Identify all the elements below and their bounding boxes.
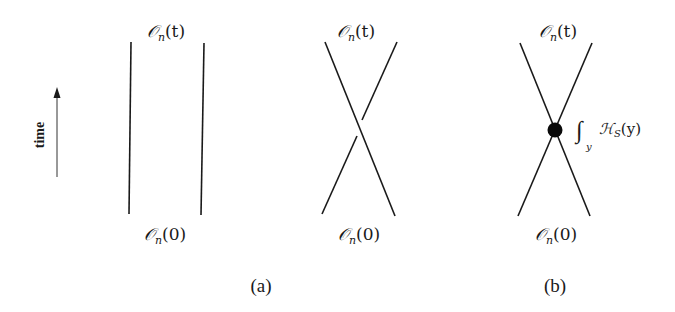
vertex-label: ∫ y ℋS(y) — [574, 117, 641, 152]
integral-subscript: y — [585, 141, 592, 152]
top-operator-label: 𝒪n(t) — [337, 21, 375, 44]
interaction-vertex-dot-icon — [548, 123, 563, 138]
bottom-operator-label: 𝒪n(0) — [144, 224, 186, 247]
bottom-operator-label: 𝒪n(0) — [338, 224, 380, 247]
panel-a-crossing: 𝒪n(t) 𝒪n(0) — [322, 21, 397, 247]
caption-b: (b) — [544, 275, 566, 297]
top-operator-label: 𝒪n(t) — [147, 21, 185, 44]
caption-a: (a) — [250, 275, 271, 297]
time-axis: time — [32, 87, 61, 177]
panel-b-vertex: 𝒪n(t) ∫ y ℋS(y) 𝒪n(0) — [518, 21, 641, 247]
worldline-right — [201, 43, 204, 215]
panel-a-parallel: 𝒪n(t) 𝒪n(0) — [129, 21, 204, 247]
bottom-operator-label: 𝒪n(0) — [535, 224, 577, 247]
time-axis-label: time — [32, 122, 47, 148]
time-arrow-head-icon — [54, 87, 61, 98]
worldline-left — [129, 42, 131, 214]
figure-canvas: time 𝒪n(t) 𝒪n(0) 𝒪n(t) 𝒪n(0) 𝒪n(t) — [0, 0, 675, 312]
worldline-under-strand-lower — [322, 136, 357, 214]
top-operator-label: 𝒪n(t) — [539, 21, 577, 44]
integral-sign: ∫ — [574, 117, 584, 145]
worldline-under-strand-upper — [362, 42, 397, 120]
hamiltonian-density: ℋS(y) — [599, 120, 641, 139]
